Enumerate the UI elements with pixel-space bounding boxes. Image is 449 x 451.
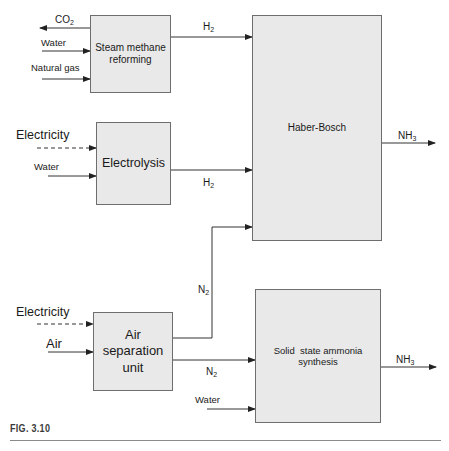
ssas-water-label: Water bbox=[195, 395, 220, 405]
haber-bosch-box-label: Haber-Bosch bbox=[288, 122, 346, 134]
elec-h2-label: H2 bbox=[203, 178, 214, 189]
asu-box-label: Air separation unit bbox=[103, 327, 164, 376]
air-label: Air bbox=[46, 337, 62, 350]
elec-water-label: Water bbox=[34, 162, 59, 172]
asu-n2-up-label: N2 bbox=[198, 285, 209, 296]
hb-nh3-label-base: NH bbox=[398, 130, 412, 141]
ammonia-production-diagram: Steam methane reforming Electrolysis Hab… bbox=[0, 0, 449, 451]
hb-nh3-label: NH3 bbox=[398, 131, 416, 142]
elec-electricity-label: Electricity bbox=[16, 129, 69, 142]
ssas-nh3-label-sub: 3 bbox=[410, 359, 414, 366]
smr-h2-label: H2 bbox=[203, 22, 214, 33]
figure-caption: FIG. 3.10 bbox=[10, 423, 50, 435]
asu-n2-right-label-sub: 2 bbox=[213, 371, 217, 378]
natural-gas-label: Natural gas bbox=[31, 63, 80, 73]
asu-electricity-label: Electricity bbox=[16, 306, 69, 319]
ssas-nh3-label-base: NH bbox=[396, 354, 410, 365]
ssas-box-label: Solid state ammonia synthesis bbox=[274, 345, 363, 368]
steam-methane-reforming-box: Steam methane reforming bbox=[90, 15, 171, 93]
hb-nh3-label-sub: 3 bbox=[412, 135, 416, 142]
smr-water-label: Water bbox=[41, 38, 66, 48]
electrolysis-box-label: Electrolysis bbox=[102, 156, 165, 171]
smr-h2-label-sub: 2 bbox=[210, 26, 214, 33]
asu-n2-to-hb-arrow bbox=[173, 227, 252, 338]
smr-box-label: Steam methane reforming bbox=[95, 42, 166, 66]
elec-h2-label-sub: 2 bbox=[210, 182, 214, 189]
co2-label-sub: 2 bbox=[70, 19, 74, 26]
caption-divider bbox=[10, 440, 441, 441]
ssas-nh3-label: NH3 bbox=[396, 355, 414, 366]
air-separation-unit-box: Air separation unit bbox=[93, 312, 173, 391]
electrolysis-box: Electrolysis bbox=[96, 122, 171, 205]
solid-state-ammonia-synthesis-box: Solid state ammonia synthesis bbox=[255, 289, 381, 423]
haber-bosch-box: Haber-Bosch bbox=[252, 15, 382, 241]
co2-label: CO2 bbox=[55, 15, 74, 26]
asu-n2-right-label: N2 bbox=[206, 367, 217, 378]
asu-n2-up-label-sub: 2 bbox=[205, 289, 209, 296]
co2-label-base: CO bbox=[55, 14, 70, 25]
